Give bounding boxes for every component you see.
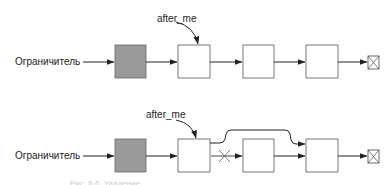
sentinel-node <box>115 139 146 172</box>
bottom-list <box>83 120 379 172</box>
top-head-label: Ограничитель <box>15 57 80 67</box>
bottom-pointer-label: after_me <box>146 110 185 120</box>
bottom-head-label: Ограничитель <box>15 151 80 161</box>
pointer-arrow <box>176 120 196 138</box>
null-terminator-icon <box>368 56 379 69</box>
pointer-arrow <box>176 22 198 44</box>
figure-caption: Рис. 6.6. Удаление... <box>70 180 147 185</box>
list-node <box>306 45 338 78</box>
removed-node <box>243 139 274 172</box>
top-pointer-label: after_me <box>157 14 196 24</box>
sentinel-node <box>115 45 146 78</box>
list-node-after-me <box>178 139 210 172</box>
list-node <box>243 45 274 78</box>
list-node <box>306 139 338 172</box>
null-terminator-icon <box>368 150 379 163</box>
top-list <box>83 22 379 78</box>
list-node <box>178 45 210 78</box>
